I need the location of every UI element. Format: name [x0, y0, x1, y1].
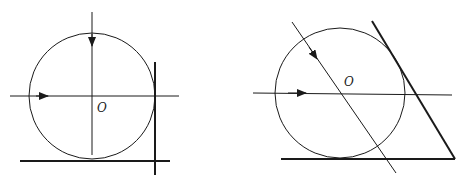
axis-horizontal-right	[253, 93, 452, 95]
diagram-canvas: O O	[0, 0, 461, 189]
axis-diagonal-right	[292, 22, 396, 173]
center-label-left: O	[97, 101, 107, 115]
arrow-diagonal-icon	[309, 47, 317, 59]
figure-right: O	[253, 21, 455, 173]
figure-left: O	[10, 12, 179, 175]
tangent-line-slanted-right	[372, 21, 455, 159]
center-label-right: O	[344, 75, 354, 89]
